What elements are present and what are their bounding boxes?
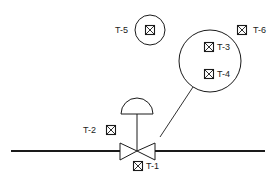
- tag-label: T-2: [83, 125, 96, 135]
- tag-label: T-6: [253, 25, 266, 35]
- pid-diagram: T-5 T-6 T-3 T-4 T-2 T-1: [0, 0, 277, 182]
- tag-box-icon: [205, 43, 214, 52]
- tag-box-icon: [205, 70, 214, 79]
- tag-box-icon: [107, 126, 116, 135]
- tag-t3[interactable]: T-3: [205, 42, 231, 52]
- tag-box-icon: [146, 26, 155, 35]
- tag-t2[interactable]: T-2: [83, 125, 116, 135]
- tag-box-icon: [238, 26, 247, 35]
- leader-line: [160, 87, 193, 137]
- tag-t6[interactable]: T-6: [238, 25, 267, 35]
- tag-label: T-5: [115, 25, 128, 35]
- tag-t1[interactable]: T-1: [134, 161, 160, 171]
- tag-t4[interactable]: T-4: [205, 69, 231, 79]
- diaphragm-actuator-icon: [121, 98, 153, 114]
- tag-label: T-4: [217, 69, 230, 79]
- tag-label: T-1: [146, 161, 159, 171]
- instrument-circle-large: [179, 30, 241, 92]
- tag-box-icon: [134, 162, 143, 171]
- tag-label: T-3: [217, 42, 230, 52]
